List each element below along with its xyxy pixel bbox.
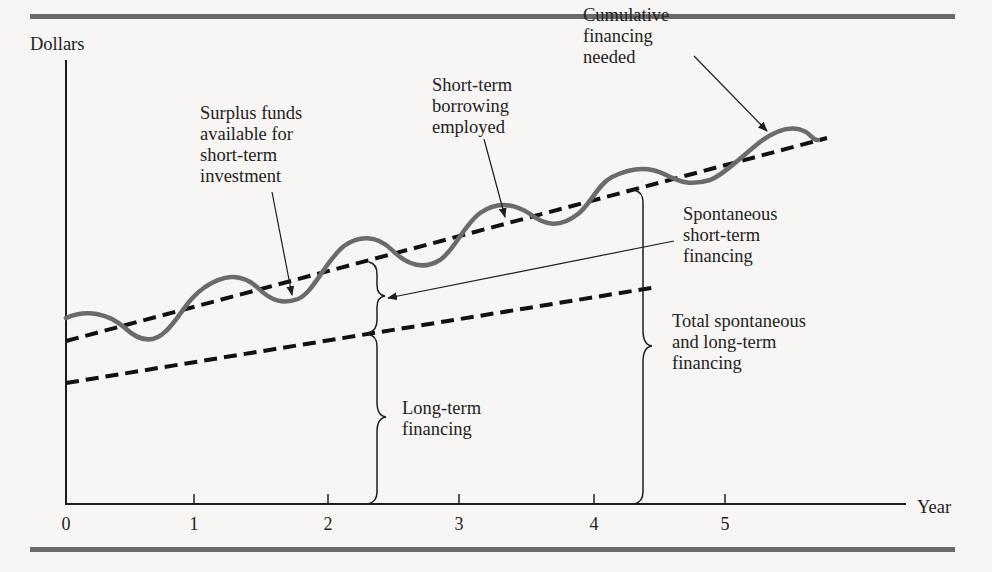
cumulative-arrow <box>694 56 767 131</box>
y-axis-label: Dollars <box>30 34 84 55</box>
x-axis-label: Year <box>917 497 951 518</box>
x-tick-label: 2 <box>324 514 333 534</box>
annotation-total-spontaneous-long-term: Total spontaneous and long-term financin… <box>672 311 806 374</box>
long-term-brace <box>368 334 386 504</box>
x-tick-label: 3 <box>455 514 464 534</box>
long-term-financing-line <box>66 287 657 383</box>
x-tick-label: 4 <box>590 514 599 534</box>
total-brace <box>634 190 652 504</box>
annotation-surplus-funds: Surplus funds available for short-term i… <box>200 103 302 187</box>
annotation-cumulative-financing: Cumulative financing needed <box>583 5 669 68</box>
x-tick-label: 1 <box>190 514 199 534</box>
x-tick-label: 5 <box>721 514 730 534</box>
x-tick-label: 0 <box>62 514 71 534</box>
braces <box>368 190 652 504</box>
x-ticks <box>194 494 725 504</box>
spontaneous-brace <box>369 262 385 333</box>
surplus-arrow <box>272 192 292 295</box>
annotation-spontaneous-short-term: Spontaneous short-term financing <box>683 204 778 267</box>
annotation-short-term-borrowing: Short-term borrowing employed <box>432 75 512 138</box>
annotation-long-term-financing: Long-term financing <box>402 398 481 440</box>
